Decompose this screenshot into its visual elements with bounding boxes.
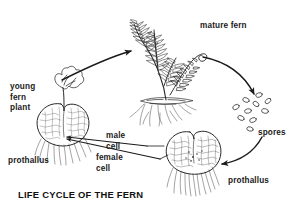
arrow-mature-to-spores xyxy=(203,57,254,94)
arrow-young-to-mature xyxy=(62,51,131,80)
prothallus-right-rhizoids xyxy=(167,167,219,196)
prothallus-right-cells xyxy=(170,136,219,167)
figure-title: LIFE CYCLE OF THE FERN xyxy=(18,189,143,200)
prothallus-right-notch xyxy=(193,139,194,163)
fern-rhizome xyxy=(141,98,193,105)
cycle-arrows xyxy=(62,51,262,164)
fern-frond-center xyxy=(145,30,169,70)
young-fern-plant-illustration xyxy=(35,66,91,165)
label-mature-fern: mature fern xyxy=(200,21,247,32)
mature-fern-illustration xyxy=(130,20,207,126)
label-prothallus-right: prothallus xyxy=(228,176,269,187)
young-prothallus-notch xyxy=(63,111,64,137)
fern-life-cycle-figure: mature fern young fern plant prothallus … xyxy=(0,0,298,204)
label-female-cell: female cell xyxy=(96,153,123,174)
label-spores: spores xyxy=(258,128,286,139)
label-prothallus-left: prothallus xyxy=(8,156,49,167)
fern-fiddlehead xyxy=(170,54,207,95)
label-male-cell: male cell xyxy=(106,131,125,152)
arrow-spores-to-prothallus xyxy=(222,137,262,164)
prothallus-right-illustration xyxy=(166,131,221,196)
diagram-artwork xyxy=(0,0,298,204)
spores-illustration xyxy=(232,92,272,132)
fern-roots xyxy=(130,104,196,126)
young-fern-frond xyxy=(55,66,84,89)
young-fern-stalk xyxy=(63,88,64,107)
label-young-fern-plant: young fern plant xyxy=(10,82,35,114)
